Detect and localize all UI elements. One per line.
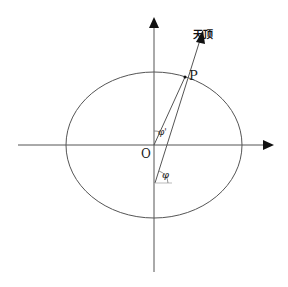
geodetic-angle-label: φ	[162, 169, 169, 180]
normal-line	[155, 40, 200, 183]
y-axis-arrow-icon	[149, 17, 159, 28]
zenith-label: 天顶	[193, 29, 213, 40]
point-p	[184, 76, 187, 79]
x-axis-arrow-icon	[263, 140, 274, 150]
geocentric-angle-label: φ'	[158, 127, 167, 137]
point-p-label: P	[189, 68, 198, 83]
latitude-diagram: 天顶 P O φ' φ	[0, 0, 288, 287]
origin-label: O	[141, 147, 151, 161]
